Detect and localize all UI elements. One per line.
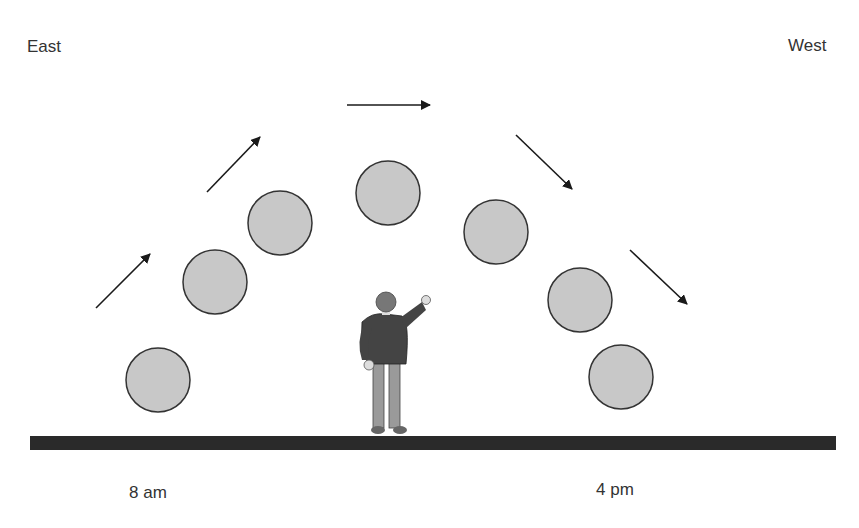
sun-icon xyxy=(548,268,612,332)
sun-icon xyxy=(183,250,247,314)
ground-bar xyxy=(30,436,836,450)
person-figure xyxy=(359,292,430,434)
west-label: West xyxy=(788,36,826,56)
time-8am-label: 8 am xyxy=(129,483,167,503)
time-4pm-label: 4 pm xyxy=(596,480,634,500)
arrow-icon xyxy=(96,254,150,308)
arrow-icon xyxy=(516,135,572,189)
sun-icon xyxy=(248,191,312,255)
sun-icon xyxy=(126,348,190,412)
sun-icon xyxy=(464,200,528,264)
sun-icon xyxy=(356,161,420,225)
east-label: East xyxy=(27,37,61,57)
arrow-icon xyxy=(207,137,260,192)
sun-icon xyxy=(589,345,653,409)
arrow-icon xyxy=(630,250,687,304)
sun-path-diagram xyxy=(0,0,859,528)
